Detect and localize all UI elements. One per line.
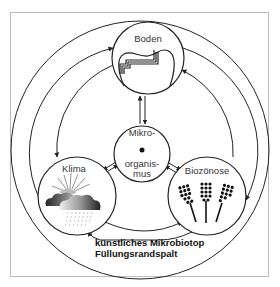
ecosystem-diagram: Boden Mikro- organis- mus Klima: [0, 0, 280, 287]
arc-biozoenose-boden-inner: [182, 70, 233, 157]
node-mikroorganismus: Mikro- organis- mus: [114, 126, 170, 182]
node-boden: Boden: [112, 22, 184, 94]
arc-klima-biozoenose: [105, 222, 182, 231]
node-klima: Klima: [38, 157, 116, 235]
arc-boden-klima-inner: [57, 65, 113, 157]
mikro-label-3: mus: [133, 168, 151, 179]
dot-icon: [140, 148, 145, 153]
biozoenose-label: Biozönose: [185, 165, 229, 176]
caption-line-2: Füllungsrandspalt: [95, 248, 178, 259]
caption-line-1: künstliches Mikrobiotop: [95, 237, 204, 248]
boden-label: Boden: [134, 33, 161, 44]
mikro-label-1: Mikro-: [129, 127, 155, 138]
caption: künstliches Mikrobiotop Füllungsrandspal…: [95, 237, 204, 259]
klima-label: Klima: [62, 163, 86, 174]
node-biozoenose: Biozönose: [168, 157, 246, 235]
